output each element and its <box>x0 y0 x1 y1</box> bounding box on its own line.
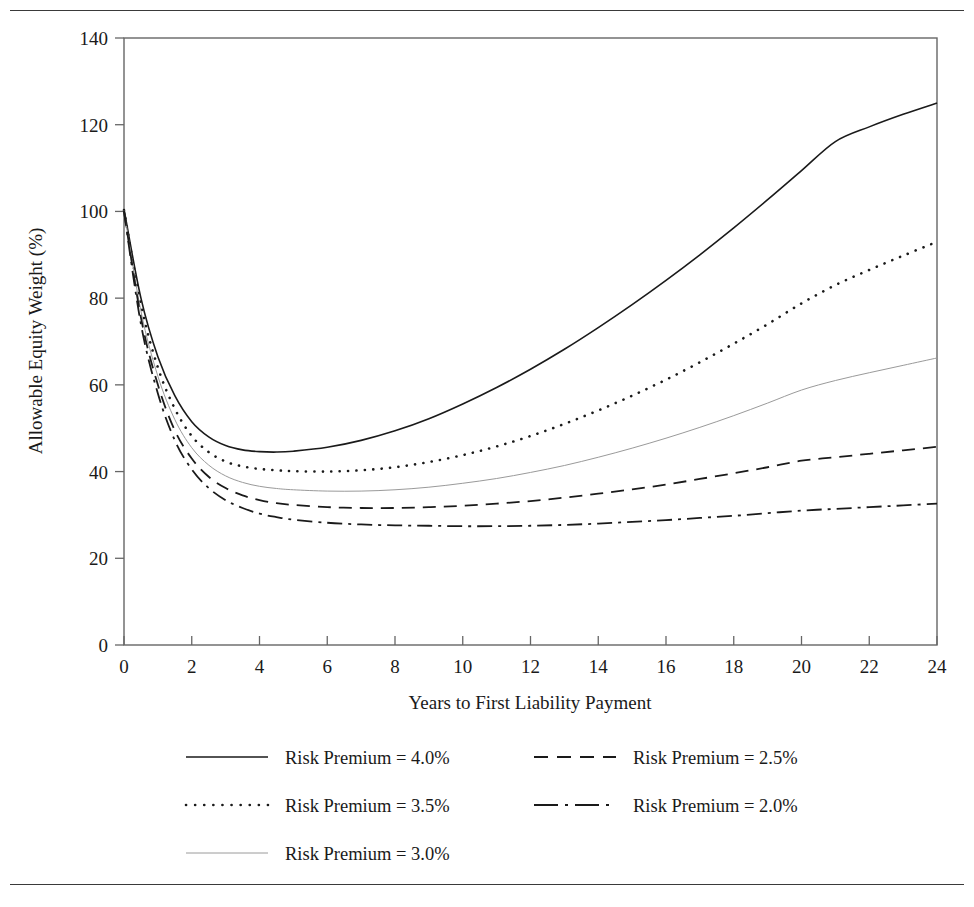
figure-container: 020406080100120140 024681012141618202224… <box>0 0 974 907</box>
x-tick-label: 0 <box>119 656 129 677</box>
x-tick-label: 8 <box>390 656 400 677</box>
y-tick-label: 100 <box>80 201 109 222</box>
y-axis-title: Allowable Equity Weight (%) <box>25 228 47 455</box>
series-line-3 <box>124 211 937 508</box>
x-tick-label: 18 <box>724 656 743 677</box>
y-tick-label: 140 <box>80 28 109 49</box>
y-tick-label: 120 <box>80 115 109 136</box>
chart-legend: Risk Premium = 4.0%Risk Premium = 2.5%Ri… <box>186 748 798 864</box>
x-axis-title: Years to First Liability Payment <box>409 692 653 713</box>
x-tick-label: 16 <box>657 656 676 677</box>
x-axis-ticks <box>124 636 937 645</box>
x-tick-label: 4 <box>255 656 265 677</box>
x-tick-label: 24 <box>928 656 948 677</box>
x-axis-tick-labels: 024681012141618202224 <box>119 656 947 677</box>
y-axis-tick-labels: 020406080100120140 <box>80 28 109 656</box>
x-tick-label: 6 <box>323 656 333 677</box>
y-tick-label: 20 <box>89 548 108 569</box>
legend-label-4: Risk Premium = 3.0% <box>285 844 450 864</box>
x-tick-label: 2 <box>187 656 197 677</box>
y-tick-label: 40 <box>89 462 108 483</box>
y-tick-label: 60 <box>89 375 108 396</box>
x-tick-label: 22 <box>860 656 879 677</box>
y-tick-label: 80 <box>89 288 108 309</box>
x-tick-label: 14 <box>589 656 609 677</box>
plot-frame <box>124 38 937 645</box>
series-line-2 <box>124 211 937 492</box>
legend-label-0: Risk Premium = 4.0% <box>285 748 450 768</box>
chart-plot-area: 020406080100120140 024681012141618202224… <box>0 0 974 907</box>
legend-label-3: Risk Premium = 2.0% <box>633 796 798 816</box>
x-tick-label: 20 <box>792 656 811 677</box>
y-axis-ticks <box>115 38 124 645</box>
legend-label-2: Risk Premium = 3.5% <box>285 796 450 816</box>
legend-label-1: Risk Premium = 2.5% <box>633 748 798 768</box>
x-tick-label: 12 <box>521 656 540 677</box>
y-tick-label: 0 <box>99 635 109 656</box>
series-line-0 <box>124 103 937 452</box>
series-line-1 <box>124 210 937 471</box>
x-tick-label: 10 <box>453 656 472 677</box>
chart-series-group <box>124 103 937 526</box>
